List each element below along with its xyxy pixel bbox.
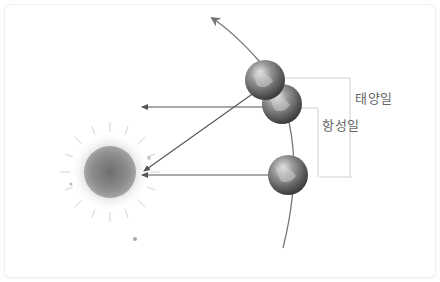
star-dot (133, 237, 137, 241)
arrow-to-sun (144, 90, 258, 171)
sun-icon (60, 122, 160, 222)
parallel-arrows-to-distant-star (142, 107, 276, 175)
sidereal-day-label: 항성일 (322, 115, 360, 134)
star-dot (70, 183, 73, 186)
earth-icon (268, 155, 308, 195)
star-dot (147, 156, 151, 160)
solar-day-label: 태양일 (355, 88, 393, 107)
earth-rotation-diagram (0, 0, 440, 282)
earth-icon (245, 60, 285, 100)
orbit-arc (212, 18, 294, 248)
